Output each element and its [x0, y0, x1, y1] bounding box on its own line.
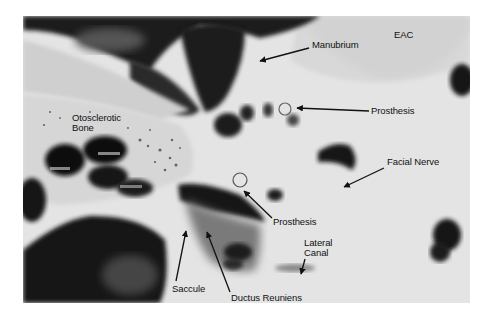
- label-ductus-reuniens: Ductus Reuniens: [231, 293, 302, 304]
- label-saccule: Saccule: [172, 284, 205, 295]
- label-facial-nerve: Facial Nerve: [387, 157, 439, 168]
- label-bone: Bone: [72, 123, 94, 134]
- label-canal: Canal: [304, 248, 328, 259]
- label-prosthesis-lower: Prosthesis: [273, 217, 316, 228]
- label-manubrium: Manubrium: [312, 40, 359, 51]
- label-eac: EAC: [394, 30, 413, 41]
- label-prosthesis-upper: Prosthesis: [371, 106, 414, 117]
